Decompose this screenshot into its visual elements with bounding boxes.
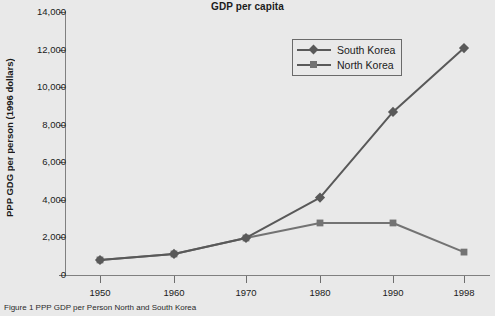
x-tick-label: 1990: [363, 287, 423, 298]
gdp-per-capita-chart: GDP per capita PPP GDG per person (1996 …: [0, 0, 495, 316]
x-tick-label: 1950: [70, 287, 130, 298]
data-point: [95, 255, 105, 265]
data-point: [171, 251, 178, 258]
y-tick-label: 8,000: [12, 119, 66, 130]
y-tick-label: 14,000: [12, 6, 66, 17]
data-point: [97, 257, 104, 264]
x-tick-mark: [174, 276, 175, 283]
line-diamond-icon: [297, 43, 331, 57]
x-tick-label: 1998: [434, 287, 494, 298]
y-tick-label: 0: [12, 269, 66, 280]
line-square-icon: [297, 58, 331, 72]
data-point: [169, 249, 179, 259]
legend-label-south-korea: South Korea: [337, 44, 395, 56]
data-point: [390, 220, 397, 227]
x-tick-mark: [246, 276, 247, 283]
x-tick-mark: [393, 276, 394, 283]
data-point: [461, 249, 468, 256]
data-point: [317, 220, 324, 227]
x-tick-mark: [464, 276, 465, 283]
x-tick-mark: [320, 276, 321, 283]
series-plot: [0, 0, 495, 316]
x-axis-line: [65, 275, 490, 276]
y-tick-label: 10,000: [12, 81, 66, 92]
legend-item-north-korea[interactable]: North Korea: [297, 57, 395, 72]
legend-label-north-korea: North Korea: [337, 59, 394, 71]
y-tick-label: 2,000: [12, 231, 66, 242]
data-point: [459, 43, 469, 53]
chart-title: GDP per capita: [0, 1, 495, 12]
data-point: [388, 107, 398, 117]
data-point: [241, 233, 251, 243]
chart-legend[interactable]: South Korea North Korea: [292, 39, 402, 76]
data-point: [243, 235, 250, 242]
series-line-south-korea: [100, 48, 464, 260]
figure-caption: Figure 1 PPP GDP per Person North and So…: [4, 303, 491, 312]
y-tick-label: 4,000: [12, 194, 66, 205]
series-line-north-korea: [100, 223, 464, 260]
y-tick-label: 6,000: [12, 156, 66, 167]
data-point: [315, 193, 325, 203]
legend-item-south-korea[interactable]: South Korea: [297, 42, 395, 57]
y-tick-label: 12,000: [12, 44, 66, 55]
x-tick-label: 1980: [290, 287, 350, 298]
x-tick-mark: [100, 276, 101, 283]
x-tick-label: 1960: [144, 287, 204, 298]
x-tick-label: 1970: [216, 287, 276, 298]
